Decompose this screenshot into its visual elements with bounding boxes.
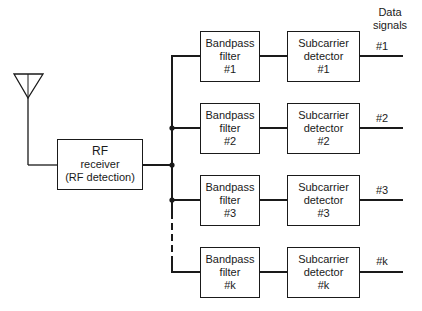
- bandpass-filter-k: Bandpass filter #k: [200, 247, 260, 298]
- subcarrier-detector-3: Subcarrier detector #3: [287, 175, 360, 226]
- bandpass-filter-2: Bandpass filter #2: [200, 103, 260, 154]
- output-label-1: #1: [370, 40, 394, 53]
- subcarrier-detector-k-line3: #k: [318, 279, 330, 292]
- bandpass-filter-3-line2: filter: [220, 194, 241, 207]
- bandpass-filter-k-line2: filter: [220, 266, 241, 279]
- bandpass-filter-2-line3: #2: [224, 135, 236, 148]
- bandpass-filter-1-line1: Bandpass: [206, 37, 255, 50]
- output-label-3: #3: [370, 184, 394, 197]
- subcarrier-detector-1-line1: Subcarrier: [298, 37, 349, 50]
- bandpass-filter-k-line1: Bandpass: [206, 253, 255, 266]
- antenna-icon: [14, 74, 57, 165]
- filter-detector-links: [259, 56, 287, 272]
- data-signals-header: Data signals: [360, 6, 420, 32]
- subcarrier-detector-2-line3: #2: [317, 135, 329, 148]
- rf-receiver-block: RF receiver (RF detection): [57, 139, 143, 190]
- subcarrier-detector-2: Subcarrier detector #2: [287, 103, 360, 154]
- bandpass-filter-3-line3: #3: [224, 207, 236, 220]
- bandpass-filter-2-line2: filter: [220, 122, 241, 135]
- subcarrier-detector-1-line3: #1: [317, 63, 329, 76]
- output-lines: [359, 56, 403, 272]
- subcarrier-detector-3-line1: Subcarrier: [298, 181, 349, 194]
- rf-receiver-line1: RF: [92, 145, 108, 158]
- output-label-k: #k: [370, 255, 394, 268]
- subcarrier-detector-2-line2: detector: [304, 122, 344, 135]
- subcarrier-detector-2-line1: Subcarrier: [298, 109, 349, 122]
- subcarrier-detector-1-line2: detector: [304, 50, 344, 63]
- rf-receiver-line3: (RF detection): [65, 171, 135, 184]
- distribution-bus: [171, 56, 200, 273]
- bandpass-filter-1-line2: filter: [220, 50, 241, 63]
- bandpass-filter-3-line1: Bandpass: [206, 181, 255, 194]
- subcarrier-detector-k-line2: detector: [304, 266, 344, 279]
- output-label-2: #2: [370, 112, 394, 125]
- bandpass-filter-2-line1: Bandpass: [206, 109, 255, 122]
- subcarrier-detector-k-line1: Subcarrier: [298, 253, 349, 266]
- subcarrier-detector-k: Subcarrier detector #k: [287, 247, 360, 298]
- bandpass-filter-3: Bandpass filter #3: [200, 175, 260, 226]
- bandpass-filter-1: Bandpass filter #1: [200, 31, 260, 82]
- bandpass-filter-k-line3: #k: [224, 279, 236, 292]
- data-signals-line2: signals: [360, 19, 420, 32]
- bandpass-filter-1-line3: #1: [224, 63, 236, 76]
- subcarrier-detector-3-line3: #3: [317, 207, 329, 220]
- rf-receiver-line2: receiver: [80, 158, 119, 171]
- subcarrier-detector-3-line2: detector: [304, 194, 344, 207]
- subcarrier-detector-1: Subcarrier detector #1: [287, 31, 360, 82]
- data-signals-line1: Data: [360, 6, 420, 19]
